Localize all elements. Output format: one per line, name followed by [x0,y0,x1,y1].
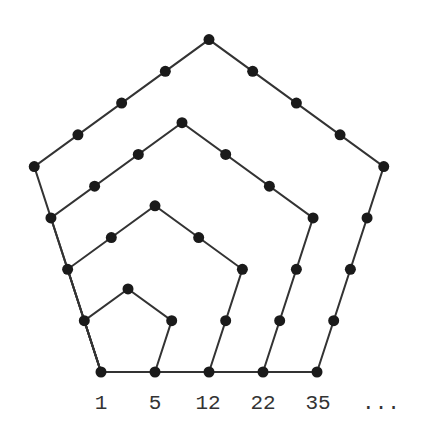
dot [133,149,144,160]
sequence-label: 1 [95,392,108,415]
dot [264,181,275,192]
dot [166,315,177,326]
dot [328,315,339,326]
dot [335,129,346,140]
dot [96,367,107,378]
dot [29,161,40,172]
sequence-label: 12 [195,392,220,415]
dot [345,264,356,275]
sequence-label: 5 [149,392,162,415]
pentagonal-numbers-diagram: 15122235... [0,0,431,431]
dot [89,181,100,192]
dot [62,264,73,275]
dot [220,149,231,160]
pentagon-figure [0,0,431,431]
dot [308,212,319,223]
dot [291,98,302,109]
dot [150,200,161,211]
dot [45,212,56,223]
sequence-label: ... [362,392,400,415]
dot [72,129,83,140]
dot [274,315,285,326]
dot [116,98,127,109]
dot [312,367,323,378]
dot [150,367,161,378]
dot [204,367,215,378]
dot [193,232,204,243]
dot [79,315,90,326]
dot [177,117,188,128]
dot [247,66,258,77]
sequence-label: 22 [250,392,275,415]
dot [123,283,134,294]
dot [291,264,302,275]
dot [106,232,117,243]
sequence-label: 35 [305,392,330,415]
dot [160,66,171,77]
pentagon-4 [51,123,313,372]
dot [204,34,215,45]
dot [258,367,269,378]
dot [237,264,248,275]
dot [362,212,373,223]
dot [378,161,389,172]
dot [220,315,231,326]
